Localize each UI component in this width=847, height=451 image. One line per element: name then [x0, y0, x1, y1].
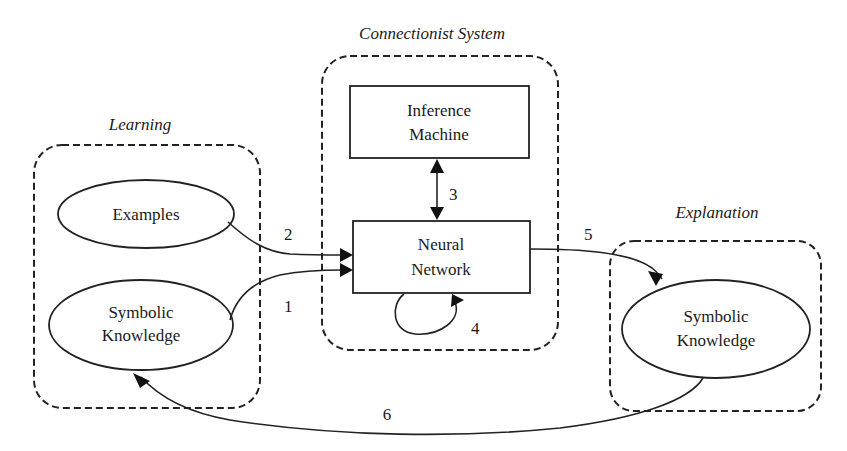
arrowhead-right-icon — [340, 248, 353, 262]
arrowhead-up-icon — [430, 159, 444, 173]
node-examples: Examples — [58, 180, 234, 248]
edge-1: 1 — [230, 263, 353, 320]
node-inference-machine-line1: Inference — [407, 101, 471, 120]
node-neural-network-line2: Network — [411, 260, 471, 279]
edge-label-5: 5 — [584, 225, 593, 244]
arrowhead-down-icon — [430, 207, 444, 220]
edge-3: 3 — [430, 159, 458, 220]
node-symbolic-knowledge-learning: Symbolic Knowledge — [49, 280, 233, 370]
edge-5: 5 — [530, 225, 663, 286]
arrowhead-right-icon — [340, 263, 353, 277]
arrowhead-up-left-icon — [133, 373, 150, 388]
node-inference-machine: Inference Machine — [350, 86, 529, 158]
group-title-connectionist-system: Connectionist System — [359, 24, 505, 43]
node-symbolic-knowledge-learning-line2: Knowledge — [102, 326, 180, 345]
group-title-explanation: Explanation — [674, 203, 758, 222]
edge-label-4: 4 — [471, 319, 480, 338]
node-neural-network: Neural Network — [353, 221, 530, 293]
node-examples-label: Examples — [112, 205, 179, 224]
arrowhead-down-right-icon — [648, 271, 663, 286]
edge-4: 4 — [395, 294, 480, 338]
node-neural-network-line1: Neural — [418, 235, 465, 254]
node-inference-machine-line2: Machine — [409, 125, 468, 144]
node-symbolic-knowledge-learning-line1: Symbolic — [108, 303, 174, 322]
edge-2: 2 — [228, 222, 353, 262]
group-title-learning: Learning — [108, 115, 171, 134]
arrowhead-loop-icon — [451, 294, 464, 307]
edge-label-1: 1 — [284, 297, 293, 316]
node-symbolic-knowledge-explanation-line1: Symbolic — [683, 307, 749, 326]
edge-label-6: 6 — [383, 405, 392, 424]
node-symbolic-knowledge-explanation-line2: Knowledge — [677, 331, 755, 350]
node-symbolic-knowledge-explanation: Symbolic Knowledge — [622, 280, 810, 378]
neural-symbolic-cycle-diagram: Learning Connectionist System Explanatio… — [0, 0, 847, 451]
edge-label-2: 2 — [284, 225, 293, 244]
edge-label-3: 3 — [449, 185, 458, 204]
